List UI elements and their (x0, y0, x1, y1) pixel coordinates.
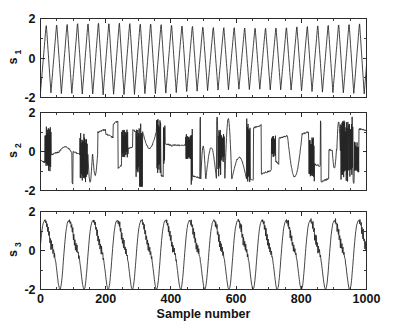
ylabel-main-s2: s (6, 151, 20, 158)
ytick-label-s1-1: 0 (29, 52, 36, 66)
signal-trace-s2 (41, 117, 367, 187)
ytick-label-s1-0: -2 (24, 91, 35, 105)
subplot-s1: -202s1 (6, 12, 367, 105)
ytick-label-s3-0: -2 (24, 283, 35, 297)
ytick-label-s2-2: 2 (29, 106, 36, 120)
subplot-s3: -202s3 (6, 205, 367, 297)
ylabel-main-s1: s (6, 57, 20, 64)
xtick-label-2: 400 (160, 292, 181, 306)
ytick-label-s1-2: 2 (29, 12, 36, 26)
ylabel-subscript-s1: 1 (13, 50, 23, 55)
ytick-label-s2-0: -2 (24, 184, 35, 198)
ytick-label-s3-2: 2 (29, 205, 36, 219)
ylabel-s1: s1 (6, 50, 23, 65)
subplot-s2: -202s2 (6, 106, 367, 198)
xtick-label-4: 800 (291, 292, 312, 306)
ylabel-subscript-s2: 2 (13, 143, 23, 148)
chart-canvas: -202s1-202s2-202s302004006008001000Sampl… (0, 0, 395, 324)
signal-trace-s1 (41, 23, 367, 95)
x-axis-title: Sample number (157, 307, 251, 321)
ytick-label-s2-1: 0 (29, 145, 36, 159)
x-axis-group: 02004006008001000Sample number (37, 292, 380, 321)
xtick-label-5: 1000 (353, 292, 381, 306)
ylabel-main-s3: s (6, 250, 20, 257)
ylabel-s3: s3 (6, 242, 23, 257)
signal-trace-s3 (41, 219, 367, 290)
ytick-label-s3-1: 0 (29, 244, 36, 258)
xtick-label-0: 0 (37, 292, 44, 306)
ylabel-subscript-s3: 3 (13, 242, 23, 247)
xtick-label-3: 600 (226, 292, 247, 306)
source-signals-figure: -202s1-202s2-202s302004006008001000Sampl… (0, 0, 395, 324)
ylabel-s2: s2 (6, 143, 23, 158)
xtick-label-1: 200 (95, 292, 116, 306)
